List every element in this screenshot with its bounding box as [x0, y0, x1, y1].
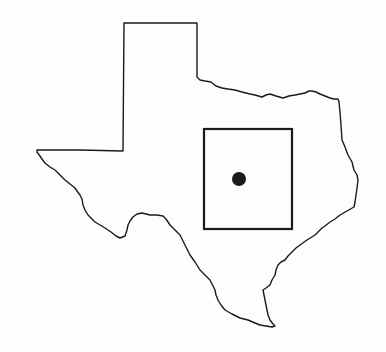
study-area-rectangle: [204, 129, 292, 229]
texas-state-outline: [37, 23, 358, 327]
site-location-dot: [232, 172, 246, 186]
map-graphic: [0, 0, 386, 352]
texas-locator-map: [0, 0, 386, 352]
